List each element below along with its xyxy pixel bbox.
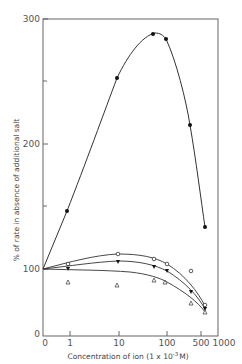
series-filled-circle bbox=[43, 32, 207, 269]
x-tick-10: 10 bbox=[113, 338, 125, 348]
x-tick-100: 100 bbox=[158, 338, 175, 348]
y-tick-0: 0 bbox=[34, 329, 40, 339]
x-tick-0: 0 bbox=[42, 338, 48, 348]
chart: 300 200 100 0 0 1 10 100 500 1000 Concen… bbox=[0, 0, 242, 364]
y-tick-300: 300 bbox=[23, 14, 40, 24]
plot-frame bbox=[43, 19, 218, 336]
y-axis-title: % of rate in absence of additional salt bbox=[12, 119, 21, 262]
x-tick-1000: 1000 bbox=[213, 338, 236, 348]
x-tick-500: 500 bbox=[192, 338, 209, 348]
x-axis-title: Concentration of ion (1 x 10-3M) bbox=[67, 351, 188, 361]
x-axis bbox=[70, 331, 201, 336]
series-filled-triangle bbox=[43, 260, 207, 311]
y-tick-200: 200 bbox=[23, 139, 40, 149]
series-open-circle bbox=[43, 252, 207, 307]
y-axis bbox=[43, 19, 48, 269]
y-tick-100: 100 bbox=[23, 264, 40, 274]
x-tick-1: 1 bbox=[67, 338, 73, 348]
